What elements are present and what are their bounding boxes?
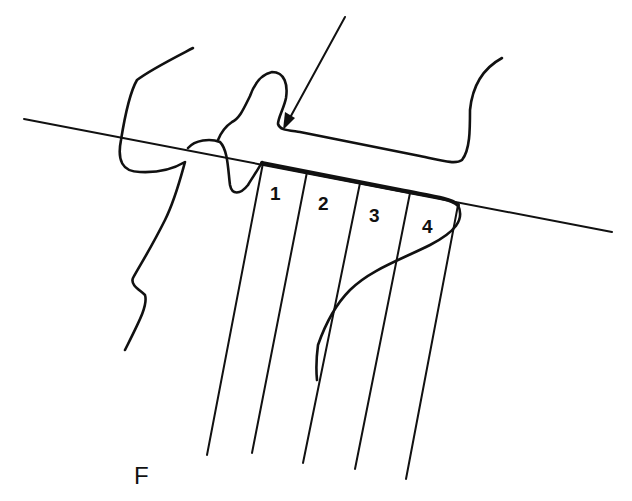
column-line-4 xyxy=(355,193,410,469)
zone-label-1: 1 xyxy=(270,183,281,204)
pointer-arrow xyxy=(286,17,345,125)
column-line-1 xyxy=(207,163,263,455)
column-line-2 xyxy=(252,172,307,453)
arrowhead-icon xyxy=(283,112,295,130)
protrusion-outline xyxy=(218,58,502,162)
zone-label-2: 2 xyxy=(318,193,329,214)
loop-structure xyxy=(188,140,262,193)
column-line-3 xyxy=(303,183,360,463)
zone-label-4: 4 xyxy=(422,216,433,237)
column-line-5 xyxy=(406,205,458,479)
profile-outline xyxy=(120,48,193,350)
panel-label: F xyxy=(134,462,149,489)
zone-label-3: 3 xyxy=(369,205,380,226)
anatomical-diagram: 1 2 3 4 F xyxy=(0,0,632,501)
